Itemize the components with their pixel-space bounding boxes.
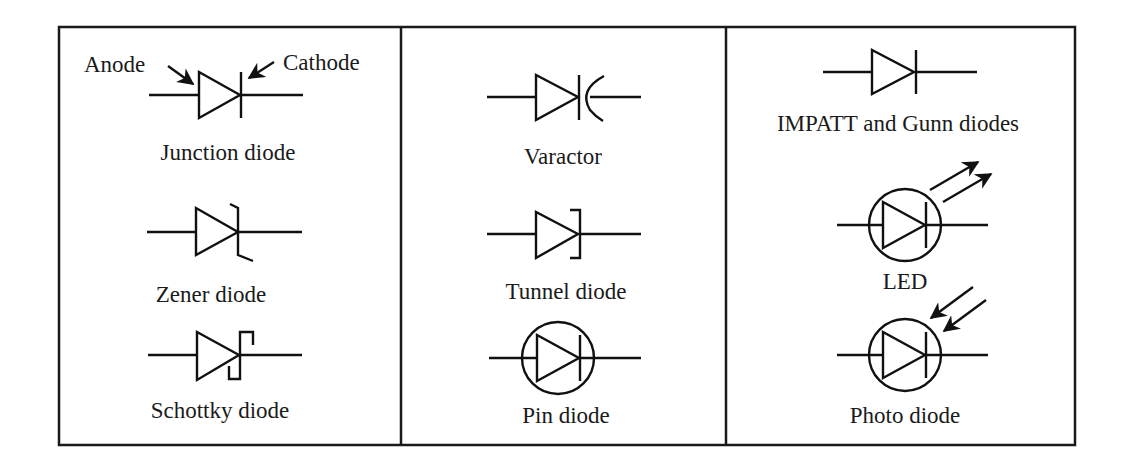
impatt-gunn-diode-symbol [823,50,977,94]
led-label: LED [883,269,928,294]
led-symbol [837,162,991,261]
diode-symbol-chart: Anode Cathode Junction diode Zener diode… [0,0,1128,467]
pin-diode-symbol [489,322,641,394]
schottky-diode-label: Schottky diode [151,398,290,423]
cathode-label: Cathode [283,50,360,75]
anode-arrow-icon [168,66,193,84]
zener-diode-label: Zener diode [156,282,266,307]
junction-diode-symbol [149,62,303,118]
table-frame [59,27,1075,445]
impatt-gunn-label: IMPATT and Gunn diodes [777,111,1019,136]
cathode-arrow-icon [249,62,274,78]
varactor-label: Varactor [524,144,602,169]
tunnel-diode-label: Tunnel diode [505,279,626,304]
junction-diode-label: Junction diode [161,140,296,165]
photo-diode-symbol [837,287,988,391]
zener-diode-symbol [147,204,302,261]
tunnel-diode-symbol [487,210,641,258]
schottky-diode-symbol [148,332,302,380]
photo-diode-label: Photo diode [850,403,961,428]
anode-label: Anode [84,52,145,77]
pin-diode-label: Pin diode [522,403,610,428]
varactor-symbol [487,75,641,121]
